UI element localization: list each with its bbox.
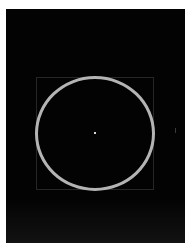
center-dot [94,132,96,134]
noise-band [6,198,185,243]
dark-canvas [6,9,185,243]
side-tick-mark [175,128,176,133]
